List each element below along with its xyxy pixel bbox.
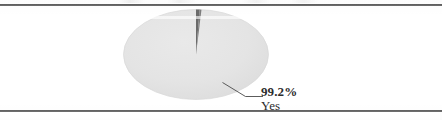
figure-bottom-rule: [0, 110, 442, 112]
ghost-caption-bleed: [118, 0, 324, 3]
callout-label: 99.2% Yes: [261, 85, 297, 113]
figure-container: 99.2% Yes: [0, 0, 442, 120]
pie-chart-svg: [123, 9, 269, 100]
callout-value: 99.2%: [261, 85, 297, 98]
pie-chart: [123, 9, 269, 100]
figure-top-rule: [0, 4, 442, 6]
